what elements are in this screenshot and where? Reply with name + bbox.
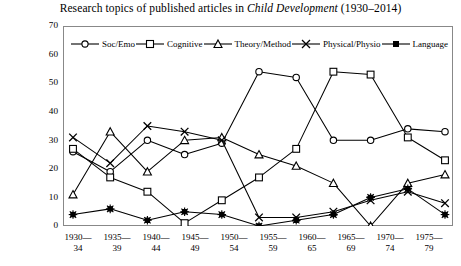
legend-item-cognitive[interactable]: Cognitive	[135, 38, 203, 50]
legend-item-theory-method[interactable]: Theory/Method	[203, 38, 292, 50]
series-physical-physio	[69, 122, 449, 221]
asterisk-marker-icon	[381, 38, 411, 50]
legend-item-language[interactable]: Language	[381, 38, 448, 50]
chart-legend: Soc/Emo Cognitive Theory/Method Physical…	[66, 33, 450, 55]
x-tick-line2: 79	[406, 243, 452, 254]
series-soc-emo	[70, 69, 448, 175]
legend-label-theory-method: Theory/Method	[235, 39, 292, 49]
x-tick-1975-79: 1975— 79	[406, 232, 452, 253]
legend-item-physical-physio[interactable]: Physical/Physio	[291, 38, 381, 50]
legend-item-soc-emo[interactable]: Soc/Emo	[70, 38, 135, 50]
circle-marker-icon	[70, 38, 100, 50]
chart-container: Research topics of published articles in…	[0, 0, 461, 266]
x-tick-line1: 1965—	[338, 232, 365, 242]
legend-label-cognitive: Cognitive	[167, 39, 203, 49]
x-tick-line1: 1975—	[416, 232, 443, 242]
x-tick-line1: 1935—	[104, 232, 131, 242]
series-language	[69, 185, 450, 226]
legend-label-language: Language	[413, 39, 448, 49]
x-tick-line1: 1930—	[65, 232, 92, 242]
square-marker-icon	[135, 38, 165, 50]
x-marker-icon	[291, 38, 321, 50]
triangle-marker-icon	[203, 38, 233, 50]
x-tick-line1: 1970—	[377, 232, 404, 242]
series-layer	[63, 26, 453, 226]
x-tick-line1: 1955—	[260, 232, 287, 242]
legend-label-soc-emo: Soc/Emo	[102, 39, 135, 49]
x-tick-line1: 1945—	[182, 232, 209, 242]
x-tick-line1: 1950—	[221, 232, 248, 242]
x-tick-line1: 1940—	[143, 232, 170, 242]
legend-label-physical-physio: Physical/Physio	[323, 39, 381, 49]
x-tick-line1: 1960—	[299, 232, 326, 242]
